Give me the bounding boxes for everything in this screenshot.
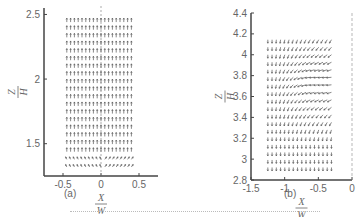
y-tick-label: 3.8 (233, 70, 247, 81)
figure-caption-truncated (70, 211, 320, 215)
svg-text:H: H (225, 92, 236, 101)
svg-text:Z: Z (6, 89, 17, 95)
svg-text:H: H (18, 88, 29, 97)
y-tick-label: 2 (34, 74, 40, 85)
y-tick-label: 2.5 (26, 9, 40, 20)
y-tick-label: 3 (241, 154, 247, 165)
y-tick-label: 1.5 (26, 138, 40, 149)
y-tick-label: 4 (241, 49, 247, 60)
panel-b-label: (b) (284, 188, 296, 199)
x-axis-label: X (297, 196, 305, 207)
y-tick-label: 3.2 (233, 133, 247, 144)
x-tick-label: 0 (349, 183, 355, 194)
svg-text:Z: Z (213, 93, 224, 99)
panel-a-label: (a) (64, 188, 76, 199)
y-axis-label: ZH (6, 86, 29, 98)
y-tick-label: 4.4 (233, 8, 247, 19)
x-tick-label: -0.5 (310, 183, 328, 194)
y-tick-label: 2.8 (233, 175, 247, 186)
figure-canvas: -0.500.51.522.5XWZH-1.5-1-0.502.833.23.4… (0, 0, 358, 217)
x-axis-label: X (97, 192, 105, 203)
x-tick-label: 0.5 (132, 179, 146, 190)
y-tick-label: 4.2 (233, 28, 247, 39)
y-tick-label: 3.4 (233, 112, 247, 123)
x-tick-label: 0 (98, 179, 104, 190)
